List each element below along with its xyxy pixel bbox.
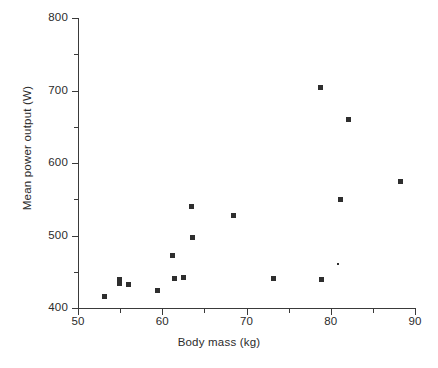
- data-point: [318, 85, 323, 90]
- x-minor-tick-mark: [373, 309, 374, 313]
- data-point: [319, 277, 324, 282]
- data-point: [271, 276, 276, 281]
- x-tick-label: 90: [395, 315, 435, 327]
- data-point: [346, 117, 351, 122]
- scatter-plot-figure: 400500600700800 5060708090 Body mass (kg…: [0, 0, 438, 368]
- x-axis-label: Body mass (kg): [0, 336, 438, 348]
- x-minor-tick-mark: [204, 309, 205, 313]
- x-minor-tick-mark: [120, 309, 121, 313]
- x-tick-label: 80: [311, 315, 351, 327]
- data-point: [117, 277, 122, 286]
- data-point: [338, 197, 343, 202]
- data-point: [189, 204, 194, 209]
- x-minor-tick-mark: [289, 309, 290, 313]
- data-point: [337, 263, 339, 265]
- data-point: [170, 253, 175, 258]
- data-point: [155, 288, 160, 293]
- data-point: [231, 213, 236, 218]
- y-axis-label: Mean power output (W): [21, 33, 33, 263]
- data-point: [126, 282, 131, 287]
- y-tick-label-container: 800: [22, 11, 68, 25]
- data-point: [181, 275, 186, 280]
- y-axis-label-container: Mean power output (W): [21, 33, 37, 263]
- plot-area: [78, 18, 415, 308]
- y-tick-label: 400: [28, 301, 68, 313]
- x-tick-label: 50: [58, 315, 98, 327]
- data-point: [190, 235, 195, 240]
- data-point: [398, 179, 403, 184]
- x-tick-label: 70: [227, 315, 267, 327]
- y-tick-label: 800: [28, 11, 68, 23]
- data-point: [172, 276, 177, 281]
- x-tick-label: 60: [142, 315, 182, 327]
- y-tick-label-container: 400: [22, 301, 68, 315]
- data-point: [102, 294, 107, 299]
